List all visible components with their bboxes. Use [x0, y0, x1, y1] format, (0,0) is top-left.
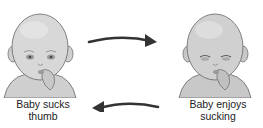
- left-node-label: Baby sucks thumb: [8, 98, 78, 122]
- baby-enjoys-sucking-illustration: [177, 12, 253, 98]
- right-label-line2: sucking: [180, 110, 256, 122]
- right-node-label: Baby enjoys sucking: [180, 98, 256, 122]
- baby-sucks-thumb-illustration: [2, 12, 78, 98]
- left-label-line1: Baby sucks: [8, 98, 78, 110]
- right-label-line1: Baby enjoys: [180, 98, 256, 110]
- cycle-arrows: [85, 28, 165, 112]
- arrow-left-icon: [92, 101, 158, 112]
- left-label-line2: thumb: [8, 110, 78, 122]
- arrow-right-icon: [89, 34, 157, 47]
